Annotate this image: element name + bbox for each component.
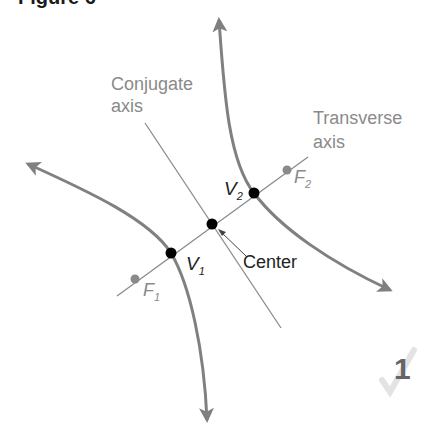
hyperbola-diagram: Conjugate axis Transverse axis Center V2…	[0, 0, 430, 444]
focus-dot-f1	[131, 275, 140, 284]
vertex-dot-v2	[249, 188, 260, 199]
vertex2-label: V2	[224, 178, 243, 202]
transverse-axis-label-line2: axis	[313, 132, 345, 152]
focus-dot-f2	[283, 166, 292, 175]
page-marker: 1	[394, 352, 411, 385]
center-label: Center	[243, 252, 297, 272]
hyperbola-branch-left	[28, 164, 207, 420]
focus1-label: F1	[143, 280, 160, 303]
conjugate-axis-label-line2: axis	[111, 96, 143, 116]
vertex-dot-v1	[166, 248, 177, 259]
transverse-axis-label-line1: Transverse	[313, 108, 402, 128]
conjugate-axis-label-line1: Conjugate	[111, 74, 193, 94]
vertex1-label: V1	[186, 253, 205, 277]
center-dot	[207, 219, 218, 230]
hyperbola-branch-right	[219, 20, 390, 290]
focus2-label: F2	[294, 167, 311, 190]
